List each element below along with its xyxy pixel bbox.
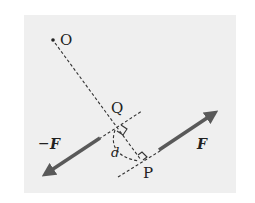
point-p-label: P bbox=[143, 164, 153, 182]
couple-moment-diagram: O Q P d − F F bbox=[0, 0, 255, 203]
force-neg-label: F bbox=[49, 136, 61, 152]
point-o-label: O bbox=[60, 31, 72, 49]
force-neg-sign: − bbox=[38, 135, 50, 151]
force-pos-label: F bbox=[196, 136, 208, 152]
distance-label: d bbox=[111, 145, 119, 160]
point-o-dot bbox=[51, 38, 55, 42]
point-q-label: Q bbox=[111, 99, 123, 117]
